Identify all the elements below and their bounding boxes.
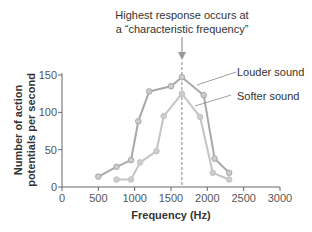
data-point-marker <box>197 114 203 120</box>
y-tick-label: 100 <box>39 106 57 118</box>
series-group <box>96 74 232 182</box>
x-tick-label: 1000 <box>122 192 146 204</box>
data-point-marker <box>96 174 102 180</box>
y-tick-label: 0 <box>51 181 57 193</box>
data-point-marker <box>114 164 120 170</box>
y-tick-label: 150 <box>39 69 57 81</box>
series-line <box>117 94 230 180</box>
data-point-marker <box>226 177 232 183</box>
data-point-marker <box>201 92 207 98</box>
x-tick-label: 1500 <box>159 192 183 204</box>
x-tick-label: 0 <box>59 192 65 204</box>
data-point-marker <box>128 157 134 163</box>
x-tick-label: 3000 <box>268 192 292 204</box>
legend-label-louder: Louder sound <box>237 66 304 78</box>
y-axis-label-line-1: Number of action <box>12 84 24 175</box>
y-axis-label: Number of action potentials per second <box>12 73 37 187</box>
data-point-marker <box>168 83 174 89</box>
data-point-marker <box>210 170 216 176</box>
data-point-marker <box>154 148 160 154</box>
frequency-response-chart: Highest response occurs at a “characteri… <box>0 0 312 232</box>
legend-leader-louder <box>197 72 236 85</box>
annotation: Highest response occurs at a “characteri… <box>115 9 248 60</box>
legend: Louder sound Softer sound <box>195 66 304 106</box>
annotation-line-1: Highest response occurs at <box>115 9 248 21</box>
data-point-marker <box>114 177 120 183</box>
x-tick-label: 500 <box>89 192 107 204</box>
arrow-head-icon <box>178 52 186 60</box>
y-axis-label-line-2: potentials per second <box>25 73 37 187</box>
data-point-marker <box>179 74 185 80</box>
legend-label-softer: Softer sound <box>237 90 299 102</box>
annotation-line-2: a “characteristic frequency” <box>116 23 249 35</box>
data-point-marker <box>161 113 167 119</box>
data-point-marker <box>212 156 218 162</box>
data-point-marker <box>179 91 185 97</box>
data-point-marker <box>226 170 232 176</box>
data-point-marker <box>146 89 152 95</box>
series-softer <box>114 91 232 182</box>
data-point-marker <box>128 177 134 183</box>
data-point-marker <box>136 118 142 124</box>
y-tick-label: 50 <box>45 144 57 156</box>
x-tick-label: 2500 <box>231 192 255 204</box>
x-tick-label: 2000 <box>195 192 219 204</box>
legend-leader-softer <box>195 95 231 106</box>
x-axis-label: Frequency (Hz) <box>131 209 211 221</box>
data-point-marker <box>137 160 143 166</box>
